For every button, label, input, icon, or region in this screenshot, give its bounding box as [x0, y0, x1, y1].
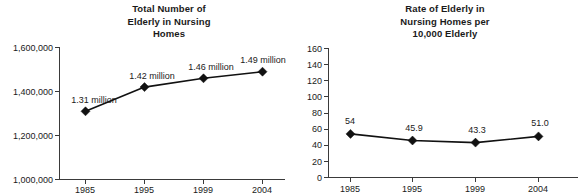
data-point-marker — [199, 74, 208, 83]
x-tick-group — [351, 178, 539, 183]
y-tick-label: 140 — [307, 60, 322, 70]
data-point-marker — [408, 136, 417, 145]
data-point-label: 1.31 million — [71, 95, 117, 105]
x-tick-label: 1995 — [402, 184, 422, 194]
y-tick-label: 1,200,000 — [13, 131, 53, 141]
data-point-label: 1.46 million — [188, 62, 234, 72]
chart-panel-total-number: Total Number of Elderly in Nursing Homes… — [0, 0, 290, 195]
figure-two-line-charts: Total Number of Elderly in Nursing Homes… — [0, 0, 580, 195]
data-point-label: 1.42 million — [129, 71, 175, 81]
data-point-label: 54 — [345, 116, 355, 126]
data-point-marker — [471, 138, 480, 147]
data-point-label: 45.9 — [405, 123, 423, 133]
x-tick-label: 1999 — [193, 185, 213, 195]
data-point-marker — [346, 129, 355, 138]
y-tick-label: 40 — [312, 140, 322, 150]
y-tick-label: 160 — [307, 44, 322, 54]
y-tick-label: 120 — [307, 76, 322, 86]
data-point-marker — [81, 107, 90, 116]
data-point-marker — [258, 67, 267, 76]
y-tick-label: 60 — [312, 124, 322, 134]
y-tick-label: 100 — [307, 92, 322, 102]
y-tick-label: 0 — [317, 173, 322, 183]
x-tick-label: 2004 — [252, 185, 272, 195]
data-point-marker — [140, 83, 149, 92]
chart-plot-rate-per-10000: 160 140 120 100 80 60 40 20 0 1985 1995 … — [290, 0, 580, 195]
y-tick-label: 80 — [312, 108, 322, 118]
series-line — [351, 134, 539, 143]
y-tick-group — [55, 48, 60, 180]
y-tick-label: 1,000,000 — [13, 175, 53, 185]
x-tick-label: 2004 — [528, 184, 548, 194]
y-tick-group — [324, 49, 329, 178]
chart-panel-rate-per-10000: Rate of Elderly in Nursing Homes per 10,… — [290, 0, 580, 195]
x-tick-label: 1999 — [465, 184, 485, 194]
x-tick-group — [86, 180, 263, 185]
data-point-label: 43.3 — [468, 125, 486, 135]
y-tick-label: 20 — [312, 157, 322, 167]
y-tick-label: 1,400,000 — [13, 87, 53, 97]
chart-plot-total-number: 1,600,000 1,400,000 1,200,000 1,000,000 … — [0, 0, 290, 195]
data-point-label: 1.49 million — [240, 55, 286, 65]
data-point-marker — [534, 132, 543, 141]
y-tick-label: 1,600,000 — [13, 43, 53, 53]
x-tick-label: 1985 — [75, 185, 95, 195]
x-tick-label: 1985 — [340, 184, 360, 194]
data-point-label: 51.0 — [531, 118, 549, 128]
x-tick-label: 1995 — [134, 185, 154, 195]
